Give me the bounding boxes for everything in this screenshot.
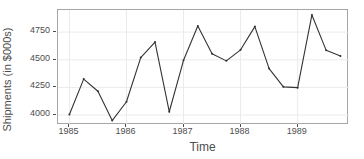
x-tick-label: 1989 [287, 127, 307, 136]
x-axis-title: Time [57, 139, 348, 155]
y-tick-mark [53, 86, 56, 87]
x-tick-mark [297, 124, 298, 127]
y-tick-mark [53, 114, 56, 115]
y-tick-label: 4000 [30, 109, 50, 118]
x-tick-label: 1985 [58, 127, 78, 136]
series-line [69, 15, 340, 121]
y-tick-label: 4500 [30, 54, 50, 63]
y-tick-label: 4750 [30, 26, 50, 35]
plot-area [58, 10, 349, 125]
y-axis-tick-labels: 4000425045004750 [10, 0, 50, 159]
y-tick-mark [53, 31, 56, 32]
x-tick-mark [240, 124, 241, 127]
chart-screenshot: Shipments (in $000s) 4000425045004750 19… [0, 0, 364, 159]
x-tick-label: 1988 [230, 127, 250, 136]
series-points [68, 14, 341, 122]
x-tick-label: 1986 [115, 127, 135, 136]
y-tick-label: 4250 [30, 81, 50, 90]
x-tick-mark [125, 124, 126, 127]
plot-panel [57, 9, 348, 124]
x-tick-mark [183, 124, 184, 127]
x-tick-mark [68, 124, 69, 127]
y-tick-mark [53, 59, 56, 60]
gridlines [58, 10, 349, 125]
x-tick-label: 1987 [173, 127, 193, 136]
